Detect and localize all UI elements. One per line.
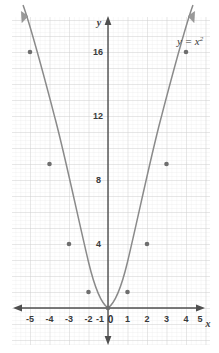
data-point xyxy=(47,162,52,167)
data-point xyxy=(106,306,111,311)
x-tick-label: 5 xyxy=(197,314,202,324)
x-tick-label: 2 xyxy=(144,314,149,324)
x-axis-label: x xyxy=(205,318,211,329)
data-point xyxy=(145,242,150,247)
x-tick-label: 3 xyxy=(164,314,169,324)
y-tick-label: 16 xyxy=(93,47,103,57)
x-tick-label: -2 xyxy=(84,314,92,324)
data-point xyxy=(184,50,189,55)
x-tick-label: 1 xyxy=(125,314,130,324)
x-tick-label: 4 xyxy=(183,314,188,324)
data-point xyxy=(28,50,33,55)
coordinate-plane-svg: -5 -4 -3 -2 -1 0 1 2 3 4 5 4 8 12 16 x y… xyxy=(0,0,219,353)
x-tick-label: -3 xyxy=(65,314,73,324)
y-tick-label: 4 xyxy=(96,239,101,249)
equation-annotation: y = x2 xyxy=(176,35,204,47)
equation-base: y = x xyxy=(176,35,200,47)
equation-exponent: 2 xyxy=(200,35,204,43)
data-point xyxy=(125,290,130,295)
x-tick-label: -1 xyxy=(96,314,104,324)
x-tick-label: -5 xyxy=(26,314,34,324)
equation-label: y = x2 xyxy=(176,35,204,47)
data-point xyxy=(86,290,91,295)
data-point xyxy=(67,242,72,247)
y-tick-label: 12 xyxy=(93,111,103,121)
graph-figure: -5 -4 -3 -2 -1 0 1 2 3 4 5 4 8 12 16 x y… xyxy=(0,0,219,353)
y-tick-label: 8 xyxy=(96,175,101,185)
x-tick-label-zero: 0 xyxy=(108,314,114,325)
y-axis-label: y xyxy=(96,17,102,28)
x-tick-label: -4 xyxy=(45,314,53,324)
data-point xyxy=(164,162,169,167)
